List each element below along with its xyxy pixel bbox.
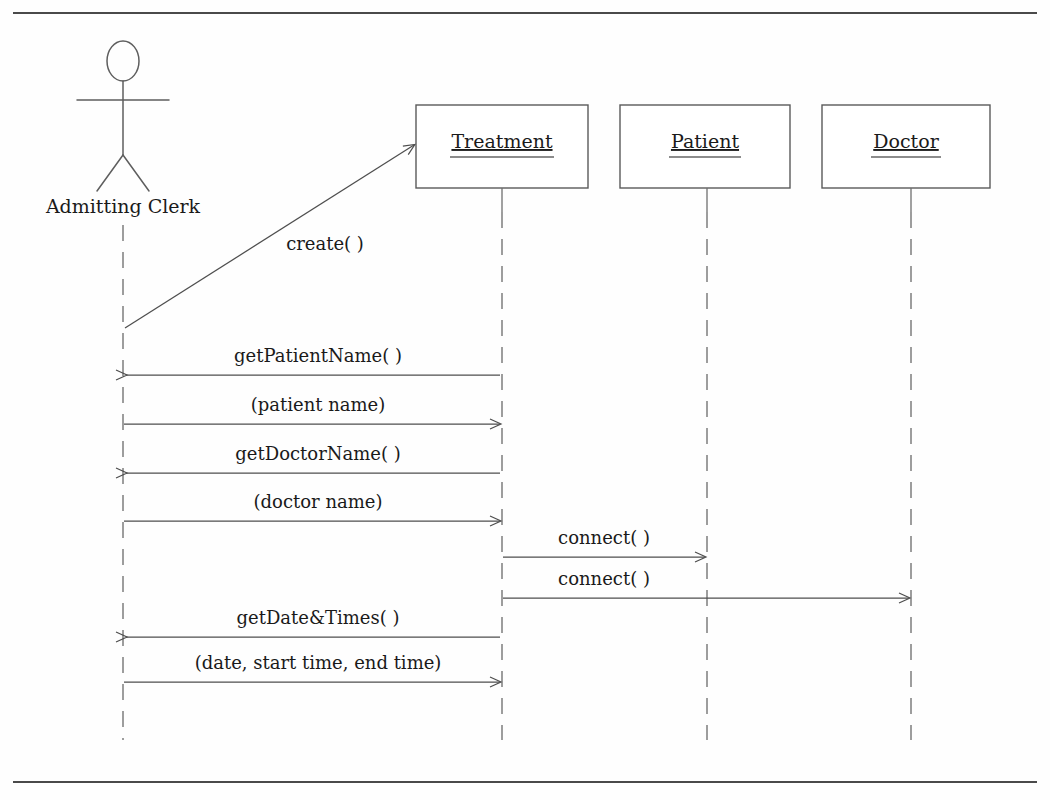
actor-right-leg-icon [123, 155, 149, 191]
msg-connect-doctor-label: connect( ) [558, 568, 650, 589]
msg-patient-name[interactable]: (patient name) [124, 394, 500, 424]
object-label-patient: Patient [671, 130, 739, 152]
msg-get-date-times-label: getDate&Times( ) [237, 607, 400, 628]
msg-get-patient-name[interactable]: getPatientName( ) [126, 345, 500, 375]
msg-connect-doctor[interactable]: connect( ) [503, 568, 909, 598]
msg-create-label: create( ) [286, 233, 364, 254]
actor-label: Admitting Clerk [45, 195, 201, 217]
msg-get-date-times[interactable]: getDate&Times( ) [126, 607, 500, 637]
msg-doctor-name[interactable]: (doctor name) [124, 491, 500, 521]
object-doctor[interactable]: Doctor [822, 105, 990, 740]
msg-get-doctor-name-label: getDoctorName( ) [235, 443, 400, 464]
msg-date-start-end[interactable]: (date, start time, end time) [124, 652, 500, 682]
actor-head-icon [107, 41, 139, 81]
object-lifelines: TreatmentPatientDoctor [416, 105, 990, 740]
msg-doctor-name-label: (doctor name) [254, 491, 383, 512]
msg-connect-patient-label: connect( ) [558, 527, 650, 548]
messages: create( )getPatientName( )(patient name)… [124, 145, 909, 682]
object-patient[interactable]: Patient [620, 105, 790, 740]
object-label-treatment: Treatment [451, 130, 552, 152]
msg-date-start-end-label: (date, start time, end time) [195, 652, 442, 673]
msg-get-doctor-name[interactable]: getDoctorName( ) [126, 443, 500, 473]
diagram-svg: Admitting Clerk TreatmentPatientDoctor c… [0, 0, 1050, 800]
object-label-doctor: Doctor [873, 130, 939, 152]
msg-connect-patient[interactable]: connect( ) [503, 527, 705, 557]
msg-get-patient-name-label: getPatientName( ) [234, 345, 402, 366]
sequence-diagram-canvas: Admitting Clerk TreatmentPatientDoctor c… [0, 0, 1050, 800]
object-treatment[interactable]: Treatment [416, 105, 588, 740]
msg-patient-name-label: (patient name) [251, 394, 386, 415]
actor-admitting-clerk[interactable]: Admitting Clerk [45, 41, 201, 740]
msg-create-line [125, 145, 414, 328]
msg-create[interactable]: create( ) [125, 145, 414, 328]
actor-left-leg-icon [97, 155, 123, 191]
